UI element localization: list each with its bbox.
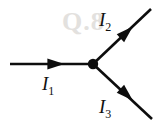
current-label-i2-subscript: 2 xyxy=(105,20,111,34)
junction-node xyxy=(88,59,98,69)
current-junction-diagram: Q.8 I1 I2 I3 xyxy=(0,0,160,126)
figure-container: Q.8 I1 I2 I3 xyxy=(0,0,160,126)
current-label-i1-subscript: 1 xyxy=(48,84,54,98)
current-label-i3-subscript: 3 xyxy=(105,107,111,121)
